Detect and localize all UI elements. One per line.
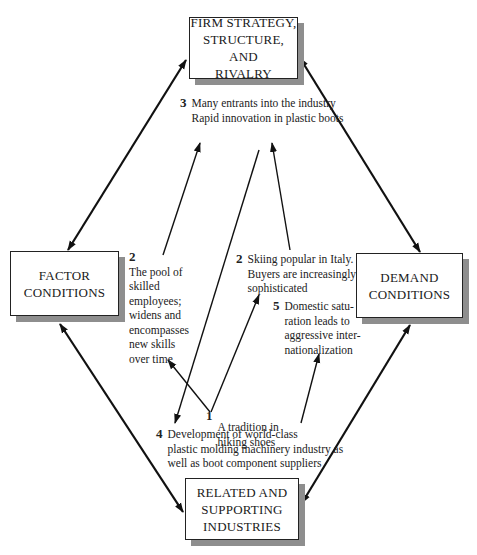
note-3-text: Many entrants into the industry Rapid in…	[192, 96, 344, 125]
arrow-top-left	[68, 60, 186, 250]
box-related-supporting-label: RELATED AND SUPPORTING INDUSTRIES	[197, 484, 288, 535]
note-2-left-text: The pool of skilled employees; widens an…	[129, 265, 189, 367]
note-3-number: 3	[180, 96, 187, 111]
note-5-number: 5	[273, 299, 280, 314]
note-2-left: 2 The pool of skilled employees; widens …	[129, 250, 189, 366]
box-firm-strategy: FIRM STRATEGY, STRUCTURE, AND RIVALRY	[189, 17, 298, 79]
note-3: 3 Many entrants into the industry Rapid …	[180, 96, 344, 125]
note-5: 5 Domestic satu- ration leads to aggress…	[273, 299, 361, 357]
note-1-number: 1	[206, 409, 213, 424]
note-4-number: 4	[156, 427, 163, 442]
box-factor-conditions: FACTOR CONDITIONS	[10, 251, 119, 316]
box-demand-conditions: DEMAND CONDITIONS	[356, 253, 463, 318]
arrow-1-to-2right	[211, 295, 259, 412]
note-2-right: 2 Skiing popular in Italy. Buyers are in…	[236, 252, 356, 296]
arrow-top-right	[300, 58, 420, 252]
arrow-4-to-5	[301, 354, 319, 423]
note-4: 4 Development of world-class plastic mol…	[156, 427, 343, 471]
note-5-text: Domestic satu- ration leads to aggressiv…	[285, 299, 361, 357]
note-2-right-text: Skiing popular in Italy. Buyers are incr…	[248, 252, 357, 296]
arrow-1-to-2left	[168, 360, 210, 412]
box-factor-conditions-label: FACTOR CONDITIONS	[24, 267, 105, 301]
arrow-2right-to-3	[272, 143, 290, 250]
note-2-right-number: 2	[236, 252, 243, 267]
note-2-left-number: 2	[129, 250, 189, 265]
box-related-supporting: RELATED AND SUPPORTING INDUSTRIES	[185, 478, 299, 540]
box-demand-conditions-label: DEMAND CONDITIONS	[369, 269, 450, 303]
note-4-text: Development of world-class plastic moldi…	[168, 427, 344, 471]
arrow-2left-to-3	[163, 143, 200, 255]
box-firm-strategy-label: FIRM STRATEGY, STRUCTURE, AND RIVALRY	[190, 14, 297, 82]
